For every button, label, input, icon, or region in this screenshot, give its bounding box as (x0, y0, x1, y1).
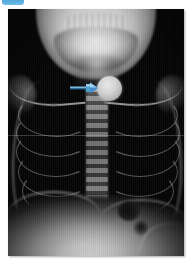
figure-container (0, 0, 192, 267)
figure-number-badge (2, 0, 24, 5)
pointer-arrow (70, 82, 98, 94)
coin-foreign-body (97, 76, 122, 101)
chest-radiograph (8, 9, 184, 256)
film-vignette (8, 9, 184, 256)
